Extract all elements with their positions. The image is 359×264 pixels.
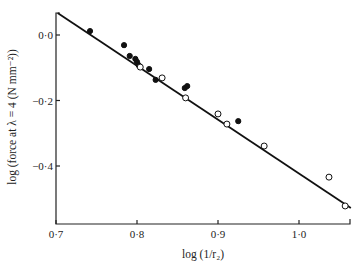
x-axis-title: log (1/r₂) bbox=[182, 248, 224, 261]
open-data-point bbox=[183, 95, 189, 101]
open-data-point bbox=[224, 121, 230, 127]
open-data-point bbox=[159, 75, 165, 81]
filled-data-point bbox=[121, 43, 126, 48]
filled-data-point bbox=[147, 66, 152, 71]
open-data-point bbox=[137, 64, 143, 70]
y-axis-title: log (force at λ = 4 (N mm⁻²)) bbox=[6, 49, 19, 185]
x-tick-label: 0·7 bbox=[49, 228, 64, 240]
x-tick-label: 0·8 bbox=[130, 228, 145, 240]
filled-data-point bbox=[153, 77, 158, 82]
chart: 0·0−0·2−0·40·70·80·91·0log (1/r₂)log (fo… bbox=[0, 0, 359, 264]
axes bbox=[56, 13, 350, 224]
open-data-point bbox=[342, 203, 348, 209]
x-tick-label: 0·9 bbox=[211, 228, 226, 240]
regression-line bbox=[58, 13, 351, 208]
axis-frame bbox=[56, 13, 350, 224]
y-tick-label: −0·4 bbox=[32, 160, 53, 172]
fit-line bbox=[58, 13, 351, 208]
filled-data-point bbox=[236, 119, 241, 124]
open-data-point bbox=[326, 174, 332, 180]
filled-data-point bbox=[127, 53, 132, 58]
open-data-point bbox=[261, 143, 267, 149]
y-tick-label: 0·0 bbox=[38, 29, 53, 41]
filled-data-point bbox=[185, 83, 190, 88]
filled-data-point bbox=[87, 28, 92, 33]
x-tick-label: 1·0 bbox=[292, 228, 307, 240]
open-data-point bbox=[215, 111, 221, 117]
y-tick-label: −0·2 bbox=[32, 95, 53, 107]
